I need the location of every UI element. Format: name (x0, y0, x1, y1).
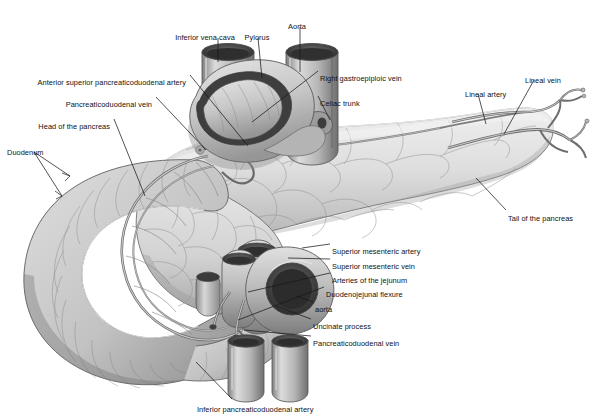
label-pylorus: Pylorus (245, 33, 270, 42)
label-pancreaticoduodenal-vein-upper: Pancreaticoduodenal vein (66, 100, 152, 109)
label-aorta-top: Aorta (288, 22, 306, 31)
label-arteries-of-the-jejunum: Arteries of the jejunum (332, 276, 407, 285)
label-uncinate-process: Uncinate process (313, 322, 371, 331)
label-lineal-vein: Lineal vein (525, 76, 561, 85)
label-duodenum: Duodenum (7, 148, 44, 157)
label-duodenojejunal-flexure: Duodenojejunal flexure (326, 290, 403, 299)
label-inferior-pancreaticoduodenal-artery: Inferior pancreaticoduodenal artery (197, 405, 313, 414)
label-lineal-artery: Lineal artery (465, 90, 506, 99)
label-tail-of-the-pancreas: Tail of the pancreas (508, 214, 573, 223)
label-superior-mesenteric-artery: Superior mesenteric artery (332, 247, 420, 256)
label-head-of-the-pancreas: Head of the pancreas (38, 122, 110, 131)
label-inferior-vena-cava: Inferior vena cava (175, 33, 235, 42)
label-celiac-trunk: Celiac trunk (320, 99, 360, 108)
label-right-gastroepiploic-vein: Right gastroepiploic vein (320, 74, 402, 83)
label-anterior-superior-pancreaticoduodenal-artery: Anterior superior pancreaticoduodenal ar… (38, 78, 186, 87)
label-superior-mesenteric-vein: Superior mesenteric vein (332, 262, 415, 271)
label-pancreaticoduodenal-vein-lower: Pancreaticoduodenal vein (313, 339, 399, 348)
label-aorta-lower: aorta (315, 305, 332, 314)
